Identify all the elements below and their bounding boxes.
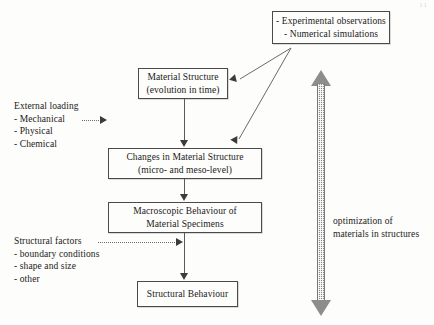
connector-sources-to-changes-arrowhead — [230, 136, 240, 146]
box-macroscopic-line-2: Material Specimens — [146, 218, 224, 231]
label-structural-factors-item-2: - shape and size — [14, 260, 99, 273]
connector-sources-to-material-line — [240, 48, 291, 79]
label-external-loading-item-2: - Physical — [14, 125, 79, 138]
connector-changes-to-macro-arrowhead — [180, 194, 188, 201]
label-optimization-line-2: materials in structures — [333, 228, 419, 241]
connector-structural-factors-line — [98, 242, 177, 243]
label-external-loading-item-1: - Mechanical — [14, 113, 79, 126]
box-experimental-sources[interactable]: - Experimental observations - Numerical … — [272, 11, 390, 44]
box-experimental-sources-line-2: - Numerical simulations — [284, 28, 378, 41]
box-macroscopic-line-1: Macroscopic Behaviour of — [133, 205, 237, 218]
connector-macro-to-structural-line — [184, 233, 185, 274]
connector-material-to-changes-arrowhead — [180, 140, 188, 147]
box-changes-line-1: Changes in Material Structure — [126, 151, 243, 164]
label-optimization: optimization of materials in structures — [333, 215, 419, 240]
box-structural-behaviour[interactable]: Structural Behaviour — [137, 281, 238, 307]
optimization-double-arrow — [311, 70, 331, 316]
box-experimental-sources-line-1: - Experimental observations — [276, 15, 386, 28]
label-external-loading-heading: External loading — [14, 100, 79, 113]
box-macroscopic-behaviour[interactable]: Macroscopic Behaviour of Material Specim… — [108, 202, 262, 233]
label-external-loading-item-3: - Chemical — [14, 138, 79, 151]
label-external-loading: External loading - Mechanical - Physical… — [14, 100, 79, 150]
connector-structural-factors-arrowhead — [176, 238, 183, 246]
box-material-structure-line-1: Material Structure — [147, 71, 218, 84]
label-optimization-line-1: optimization of — [333, 215, 419, 228]
box-material-structure-line-2: (evolution in time) — [146, 84, 219, 97]
diagram-canvas: 11 - Experimental observations - Numeric… — [0, 0, 434, 325]
box-changes-in-material-structure[interactable]: Changes in Material Structure (micro- an… — [108, 148, 262, 179]
optimization-arrow-head-down — [311, 300, 331, 316]
box-structural-behaviour-line-1: Structural Behaviour — [147, 288, 228, 301]
page-number-artifact: 11 — [419, 1, 428, 9]
label-structural-factors-item-1: - boundary conditions — [14, 248, 99, 261]
connector-external-loading-arrowhead — [100, 116, 107, 124]
connector-changes-to-macro-line — [184, 179, 185, 195]
connector-external-loading-line — [82, 120, 101, 121]
connector-macro-to-structural-arrowhead — [180, 273, 188, 280]
label-structural-factors: Structural factors - boundary conditions… — [14, 235, 99, 285]
connector-sources-to-material-arrowhead — [228, 74, 237, 83]
box-changes-line-2: (micro- and meso-level) — [138, 164, 232, 177]
label-structural-factors-item-3: - other — [14, 273, 99, 286]
label-structural-factors-heading: Structural factors — [14, 235, 99, 248]
connector-sources-to-changes-line — [239, 48, 291, 139]
connector-material-to-changes-line — [184, 99, 185, 141]
optimization-arrow-shaft — [317, 84, 325, 302]
box-material-structure[interactable]: Material Structure (evolution in time) — [138, 68, 228, 99]
